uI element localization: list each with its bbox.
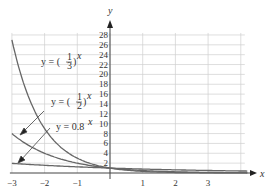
svg-text:x: x	[87, 116, 93, 127]
svg-text:): )	[83, 96, 86, 108]
svg-text:3: 3	[206, 178, 211, 188]
svg-text:22: 22	[99, 60, 108, 70]
svg-text:−1: −1	[73, 178, 83, 188]
exponential-chart: −3−2−1123246810121416182022242628 y x y …	[0, 0, 271, 191]
svg-text:28: 28	[99, 30, 109, 40]
svg-text:18: 18	[99, 79, 109, 89]
svg-text:y = 0.8: y = 0.8	[56, 121, 84, 132]
svg-text:y = (: y = (	[51, 96, 71, 108]
svg-text:10: 10	[99, 119, 109, 129]
svg-text:−3: −3	[7, 178, 17, 188]
svg-text:): )	[73, 56, 76, 68]
svg-text:24: 24	[99, 50, 109, 60]
svg-text:2: 2	[104, 158, 109, 168]
y-axis-label: y	[107, 5, 113, 16]
svg-text:26: 26	[99, 40, 109, 50]
svg-text:1: 1	[140, 178, 145, 188]
svg-text:−2: −2	[40, 178, 50, 188]
grid-lines	[12, 33, 245, 173]
svg-text:14: 14	[99, 99, 109, 109]
svg-text:8: 8	[104, 129, 109, 139]
annotation-one-half: y = ( 1 2 ) x	[51, 90, 92, 111]
svg-text:16: 16	[99, 89, 109, 99]
svg-text:x: x	[86, 90, 92, 101]
svg-text:12: 12	[99, 109, 108, 119]
annotation-point-eight: y = 0.8 x	[56, 116, 93, 132]
svg-text:20: 20	[99, 69, 109, 79]
svg-text:2: 2	[77, 100, 82, 111]
svg-text:y = (: y = (	[41, 56, 61, 68]
x-axis-label: x	[259, 168, 265, 179]
svg-text:4: 4	[104, 148, 109, 158]
svg-text:2: 2	[173, 178, 178, 188]
annotation-one-third: y = ( 1 3 ) x	[41, 50, 82, 71]
svg-text:3: 3	[67, 60, 72, 71]
svg-text:6: 6	[104, 138, 109, 148]
svg-text:x: x	[76, 50, 82, 61]
annotation-arrows	[18, 111, 50, 163]
axes	[10, 20, 257, 179]
